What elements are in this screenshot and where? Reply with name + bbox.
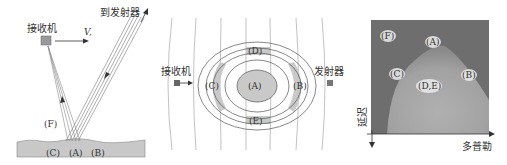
doppler-axis-arrow bbox=[489, 131, 495, 137]
label-C: (C) bbox=[205, 81, 219, 91]
label-A: (A) bbox=[69, 148, 83, 158]
delay-axis-label: 延迟 bbox=[356, 107, 368, 127]
label-F: (F) bbox=[381, 31, 394, 41]
label-DE: (D,E) bbox=[418, 81, 441, 91]
isorange-panel: 接收机 发射器 (A) (B) (C) (D) (E) bbox=[160, 0, 345, 165]
label-B: (B) bbox=[293, 81, 307, 91]
receiver-label: 接收机 bbox=[161, 65, 191, 77]
label-A: (A) bbox=[426, 37, 440, 47]
label-E: (E) bbox=[249, 116, 263, 126]
isorange-diagram: 接收机 发射器 (A) (B) (C) (D) (E) bbox=[160, 0, 345, 165]
doppler-axis-label: 多普勒 bbox=[462, 140, 492, 152]
geometry-panel: 接收机 V, 到发射器 (F) (C) (A) (B) bbox=[0, 0, 160, 165]
receiver-icon bbox=[41, 36, 51, 45]
label-B: (B) bbox=[462, 70, 476, 80]
to-transmitter-arrow bbox=[143, 8, 148, 15]
label-D: (D) bbox=[248, 46, 262, 56]
label-C: (C) bbox=[390, 69, 404, 79]
delay-doppler-map: (F) (A) (C) (B) (D,E) 延迟 多普勒 bbox=[345, 0, 507, 165]
velocity-label: V, bbox=[84, 27, 92, 37]
delay-axis-arrow bbox=[369, 142, 375, 148]
receiver-label: 接收机 bbox=[27, 22, 57, 34]
receiver-arrow bbox=[188, 81, 193, 86]
label-B: (B) bbox=[91, 148, 105, 158]
transmitter-label: 到发射器 bbox=[100, 6, 140, 18]
geometry-diagram: 接收机 V, 到发射器 (F) (C) (A) (B) bbox=[0, 0, 160, 165]
transmitter-icon bbox=[327, 80, 333, 86]
label-F: (F) bbox=[44, 119, 57, 129]
transmitter-label: 发射器 bbox=[314, 65, 344, 77]
label-C: (C) bbox=[46, 148, 60, 158]
delay-doppler-panel: (F) (A) (C) (B) (D,E) 延迟 多普勒 bbox=[345, 0, 507, 165]
label-A: (A) bbox=[248, 81, 262, 91]
receiver-icon bbox=[174, 80, 180, 86]
